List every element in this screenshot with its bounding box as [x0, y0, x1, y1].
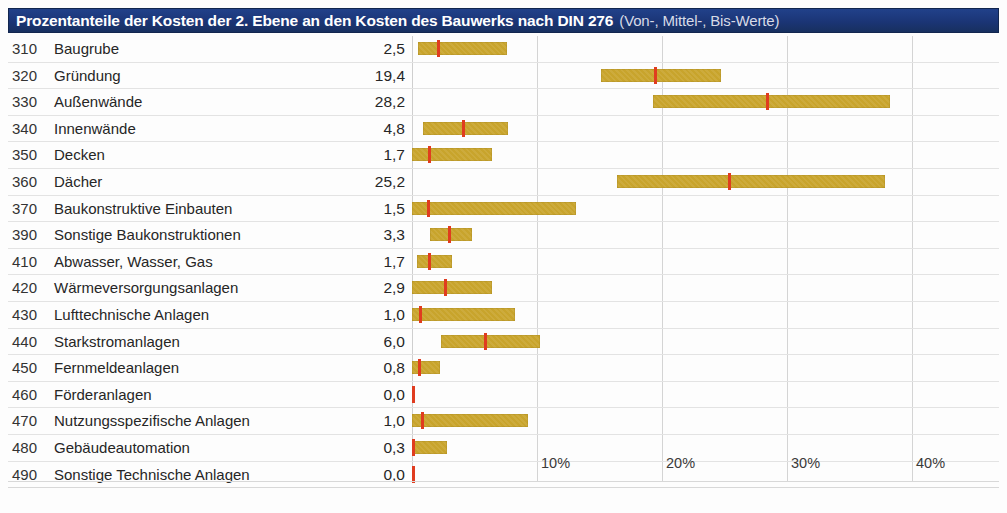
row-code: 430	[12, 302, 37, 329]
mean-marker	[448, 226, 451, 243]
row-value: 1,7	[258, 249, 405, 276]
row-value: 19,4	[258, 63, 405, 90]
x-axis-tick-10: 10%	[541, 455, 570, 471]
mean-marker	[484, 333, 487, 350]
range-bar	[412, 202, 576, 215]
mean-marker	[412, 439, 415, 456]
row-label: Gründung	[54, 63, 121, 90]
row-label: Außenwände	[54, 89, 142, 116]
range-bar	[418, 42, 507, 55]
table-row: 430Lufttechnische Anlagen1,0	[8, 302, 999, 329]
mean-marker	[419, 306, 422, 323]
row-bar-track	[412, 222, 999, 248]
row-label: Baugrube	[54, 36, 119, 63]
table-row: 320Gründung19,4	[8, 63, 999, 90]
range-bar	[653, 95, 889, 108]
row-value: 3,3	[258, 222, 405, 249]
row-bar-track	[412, 355, 999, 381]
table-row: 340Innenwände4,8	[8, 116, 999, 143]
mean-marker	[728, 173, 731, 190]
row-label: Decken	[54, 142, 105, 169]
row-bar-track	[412, 169, 999, 195]
row-value: 1,0	[258, 302, 405, 329]
row-code: 370	[12, 196, 37, 223]
row-code: 480	[12, 435, 37, 462]
bottom-rule	[8, 481, 999, 482]
table-row: 420Wärmeversorgungsanlagen2,9	[8, 275, 999, 302]
row-bar-track	[412, 36, 999, 62]
x-axis-tick-20: 20%	[666, 455, 695, 471]
row-value: 4,8	[258, 116, 405, 143]
row-label: Gebäudeautomation	[54, 435, 190, 462]
table-row: 370Baukonstruktive Einbauten1,5	[8, 196, 999, 223]
row-bar-track	[412, 196, 999, 222]
row-value: 28,2	[258, 89, 405, 116]
row-bar-track	[412, 275, 999, 301]
mean-marker	[412, 386, 415, 403]
table-row: 330Außenwände28,2	[8, 89, 999, 116]
mean-marker	[428, 253, 431, 270]
row-code: 440	[12, 329, 37, 356]
row-bar-track	[412, 63, 999, 89]
range-bar	[601, 69, 721, 82]
row-code: 350	[12, 142, 37, 169]
row-label: Sonstige Technische Anlagen	[54, 462, 250, 489]
table-row: 310Baugrube2,5	[8, 36, 999, 63]
range-bar	[441, 335, 540, 348]
row-code: 390	[12, 222, 37, 249]
row-value: 1,5	[258, 196, 405, 223]
chart-sheet: Prozentanteile der Kosten der 2. Ebene a…	[0, 0, 1007, 513]
row-value: 0,8	[258, 355, 405, 382]
chart-title-subtitle: (Von-, Mittel-, Bis-Werte)	[619, 12, 779, 29]
row-code: 330	[12, 89, 37, 116]
x-axis-ticks: 10%20%30%40%	[412, 455, 1007, 479]
mean-marker	[444, 279, 447, 296]
row-value: 0,0	[258, 462, 405, 489]
row-value: 1,7	[258, 142, 405, 169]
x-axis-tick-30: 30%	[791, 455, 820, 471]
row-bar-track	[412, 302, 999, 328]
row-label: Wärmeversorgungsanlagen	[54, 275, 238, 302]
row-code: 470	[12, 408, 37, 435]
row-value: 25,2	[258, 169, 405, 196]
row-value: 0,0	[258, 382, 405, 409]
table-row: 350Decken1,7	[8, 142, 999, 169]
row-bar-track	[412, 116, 999, 142]
mean-marker	[654, 67, 657, 84]
table-row: 460Förderanlagen0,0	[8, 382, 999, 409]
row-bar-track	[412, 408, 999, 434]
data-rows: 310Baugrube2,5320Gründung19,4330Außenwän…	[8, 36, 999, 488]
range-bar	[412, 281, 492, 294]
chart-title-bar: Prozentanteile der Kosten der 2. Ebene a…	[8, 8, 999, 33]
row-value: 0,3	[258, 435, 405, 462]
table-row: 390Sonstige Baukonstruktionen3,3	[8, 222, 999, 249]
row-label: Sonstige Baukonstruktionen	[54, 222, 241, 249]
mean-marker	[418, 359, 421, 376]
row-label: Lufttechnische Anlagen	[54, 302, 209, 329]
row-label: Abwasser, Wasser, Gas	[54, 249, 213, 276]
row-bar-track	[412, 382, 999, 408]
mean-marker	[427, 200, 430, 217]
row-code: 320	[12, 63, 37, 90]
range-bar	[617, 175, 885, 188]
range-bar	[423, 122, 508, 135]
row-code: 490	[12, 462, 37, 489]
mean-marker	[437, 40, 440, 57]
row-label: Starkstromanlagen	[54, 329, 180, 356]
row-label: Fernmeldeanlagen	[54, 355, 179, 382]
row-code: 310	[12, 36, 37, 63]
table-row: 440Starkstromanlagen6,0	[8, 329, 999, 356]
mean-marker	[766, 93, 769, 110]
row-code: 460	[12, 382, 37, 409]
row-code: 340	[12, 116, 37, 143]
range-bar	[417, 255, 452, 268]
mean-marker	[421, 412, 424, 429]
range-bar	[412, 441, 447, 454]
range-bar	[412, 361, 440, 374]
row-code: 410	[12, 249, 37, 276]
row-bar-track	[412, 249, 999, 275]
row-code: 450	[12, 355, 37, 382]
mean-marker	[462, 120, 465, 137]
table-row: 410Abwasser, Wasser, Gas1,7	[8, 249, 999, 276]
table-row: 450Fernmeldeanlagen0,8	[8, 355, 999, 382]
